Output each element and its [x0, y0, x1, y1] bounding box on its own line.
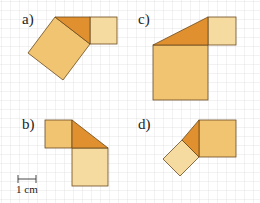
scale-bar-label: 1 cm	[16, 183, 38, 195]
panel-label-c: c)	[138, 11, 150, 28]
leg-square-d-right	[199, 120, 236, 157]
leg-square-large-c	[153, 45, 208, 100]
panel-label-a: a)	[22, 11, 34, 28]
pythagoras-figure: a) c) b) d) 1 cm	[0, 0, 260, 203]
panel-label-d: d)	[138, 116, 151, 133]
leg-square-b-bottom	[72, 148, 108, 186]
leg-square-a	[90, 17, 117, 44]
panel-label-b: b)	[22, 116, 35, 133]
leg-square-small-c	[208, 17, 236, 45]
leg-square-b-left	[45, 120, 72, 148]
